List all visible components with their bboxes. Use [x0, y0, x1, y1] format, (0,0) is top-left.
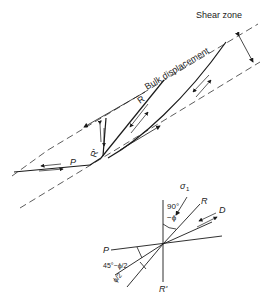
bulk-displacement-label: Bulk displacement [143, 45, 211, 91]
angle-45-label: 45°−ϕ/2 [103, 262, 128, 270]
diagram-svg: Shear zone Bulk displacement R R' P σ 1 … [0, 0, 273, 294]
angle-minus-phi-label: −ϕ [167, 213, 177, 222]
stress-p-label: P [103, 245, 109, 255]
stress-r-prime-label: R' [159, 284, 167, 294]
zone-width-arrow [239, 36, 253, 62]
sigma-sub-label: 1 [186, 186, 190, 192]
angle-90-label: 90° [167, 202, 179, 211]
shear-zone-diagram: Shear zone Bulk displacement R R' P σ 1 … [0, 0, 273, 294]
angle-phi2-label: ϕ/2 [111, 272, 123, 285]
shear-zone-lower-boundary [20, 62, 260, 208]
stress-r-label: R [201, 196, 208, 206]
r-prime-shear [103, 118, 106, 156]
r-prime-label: R' [88, 147, 100, 158]
stress-d-label: D [219, 205, 226, 215]
stress-orientation-diagram: σ 1 90° −ϕ R D P 45°−ϕ/2 ϕ/2 R' [103, 181, 226, 294]
p-label: P [70, 157, 76, 167]
r-shear-long [108, 42, 226, 158]
shear-zone-label: Shear zone [196, 10, 242, 20]
r-shear-short [101, 80, 164, 158]
